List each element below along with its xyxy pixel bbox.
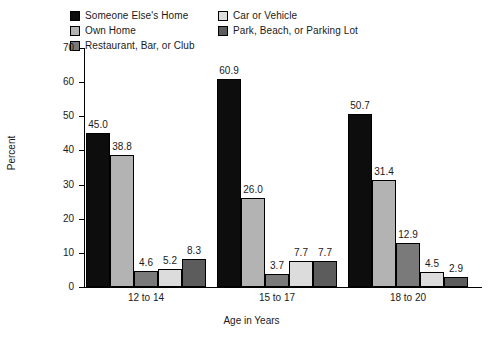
bar bbox=[86, 133, 110, 287]
y-axis-tick bbox=[79, 287, 84, 288]
y-axis-tick-labels: 010203040506070 bbox=[44, 0, 74, 338]
y-axis-tick-label: 10 bbox=[46, 248, 74, 258]
bar-value-label: 2.9 bbox=[440, 264, 472, 274]
x-axis-group-label: 15 to 17 bbox=[217, 293, 337, 303]
legend-item-someone-elses-home: Someone Else's Home bbox=[70, 11, 188, 21]
x-axis-line bbox=[84, 287, 482, 288]
y-axis-tick-label: 50 bbox=[46, 111, 74, 121]
bar-value-label: 38.8 bbox=[106, 142, 138, 152]
bar bbox=[313, 261, 337, 287]
legend-label-car-or-vehicle: Car or Vehicle bbox=[233, 11, 297, 21]
x-axis-group-label: 12 to 14 bbox=[86, 293, 206, 303]
x-axis-title: Age in Years bbox=[0, 316, 503, 326]
bar-value-label: 5.2 bbox=[154, 256, 186, 266]
bar-value-label: 31.4 bbox=[368, 167, 400, 177]
bar bbox=[444, 277, 468, 287]
y-axis-title: Percent bbox=[7, 123, 17, 183]
bar-value-label: 8.3 bbox=[178, 246, 210, 256]
bar-value-label: 60.9 bbox=[213, 66, 245, 76]
bar-value-label: 3.7 bbox=[261, 261, 293, 271]
y-axis-tick-label: 60 bbox=[46, 77, 74, 87]
bar-value-label: 45.0 bbox=[82, 120, 114, 130]
bar bbox=[241, 198, 265, 287]
legend-item-own-home: Own Home bbox=[70, 26, 136, 36]
legend-swatch-car-or-vehicle bbox=[218, 11, 228, 21]
bar-chart: Someone Else's Home Own Home Restaurant,… bbox=[0, 0, 503, 338]
bar bbox=[134, 271, 158, 287]
bar bbox=[217, 79, 241, 287]
y-axis-tick-label: 30 bbox=[46, 180, 74, 190]
bar bbox=[265, 274, 289, 287]
plot-area bbox=[84, 48, 482, 287]
y-axis-tick-label: 70 bbox=[46, 43, 74, 53]
y-axis-tick-label: 0 bbox=[46, 282, 74, 292]
bar-value-label: 12.9 bbox=[392, 230, 424, 240]
legend-label-someone-elses-home: Someone Else's Home bbox=[85, 11, 188, 21]
y-axis-tick-label: 40 bbox=[46, 145, 74, 155]
y-axis-tick-label: 20 bbox=[46, 214, 74, 224]
legend-swatch-park-beach-or-parking-lot bbox=[218, 26, 228, 36]
legend-label-own-home: Own Home bbox=[85, 26, 136, 36]
legend-item-car-or-vehicle: Car or Vehicle bbox=[218, 11, 297, 21]
legend-item-park-beach-or-parking-lot: Park, Beach, or Parking Lot bbox=[218, 26, 358, 36]
bar-value-label: 26.0 bbox=[237, 185, 269, 195]
x-axis-group-label: 18 to 20 bbox=[348, 293, 468, 303]
bar bbox=[348, 114, 372, 287]
legend-label-park-beach-or-parking-lot: Park, Beach, or Parking Lot bbox=[233, 26, 358, 36]
bar-value-label: 50.7 bbox=[344, 101, 376, 111]
bar-value-label: 7.7 bbox=[309, 248, 341, 258]
bar bbox=[158, 269, 182, 287]
